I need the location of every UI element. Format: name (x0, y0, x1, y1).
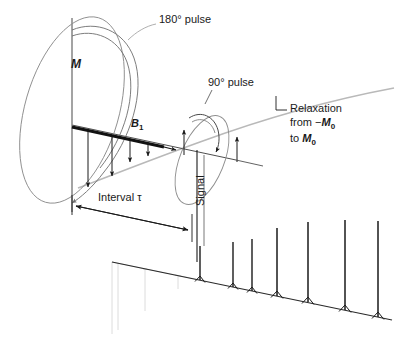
signal-spike (372, 221, 384, 320)
signal-spike (302, 222, 314, 305)
label-180-pulse: 180° pulse (159, 13, 211, 27)
signal-spike (339, 220, 351, 313)
interval-arrow (76, 206, 188, 230)
label-relaxation-from: from − (290, 116, 321, 128)
nmr-inversion-recovery-diagram: 180° pulse 90° pulse M B1 Interval τ Sig… (0, 0, 400, 344)
label-relaxation-m0-subscript: 0 (311, 138, 315, 147)
label-relaxation-line2: from −M0 (290, 116, 342, 132)
plane-edge-right (236, 160, 263, 166)
label-relaxation-m0-neg-symbol: M (321, 116, 330, 128)
b1-axis-arrow (164, 147, 176, 150)
label-b1-vector: B1 (131, 117, 143, 133)
faint-signal-trace (112, 262, 200, 334)
label-b1-symbol: B (131, 117, 139, 129)
signal-spike (247, 239, 257, 294)
signal-spike (228, 242, 238, 290)
label-relaxation-to: to (290, 132, 302, 144)
b1-axis (72, 127, 164, 147)
label-relaxation: Relaxation from −M0 to M0 (290, 102, 342, 148)
label-relaxation-line1: Relaxation (290, 102, 342, 116)
leader-relaxation (276, 96, 287, 110)
label-relaxation-m0-neg-subscript: 0 (331, 122, 335, 131)
leader-180-pulse (128, 24, 156, 40)
signal-spike (271, 228, 283, 299)
label-b1-subscript: 1 (139, 123, 143, 132)
label-interval: Interval τ (98, 191, 141, 205)
label-signal: Signal (194, 175, 208, 206)
label-magnetization-vector: M (71, 57, 81, 72)
leader-90-pulse (205, 90, 212, 104)
label-relaxation-line3: to M0 (290, 132, 342, 148)
signal-spikes (195, 220, 384, 320)
perspective-plane-line (72, 125, 236, 160)
label-90-pulse: 90° pulse (208, 76, 254, 90)
diagram-canvas (0, 0, 400, 344)
